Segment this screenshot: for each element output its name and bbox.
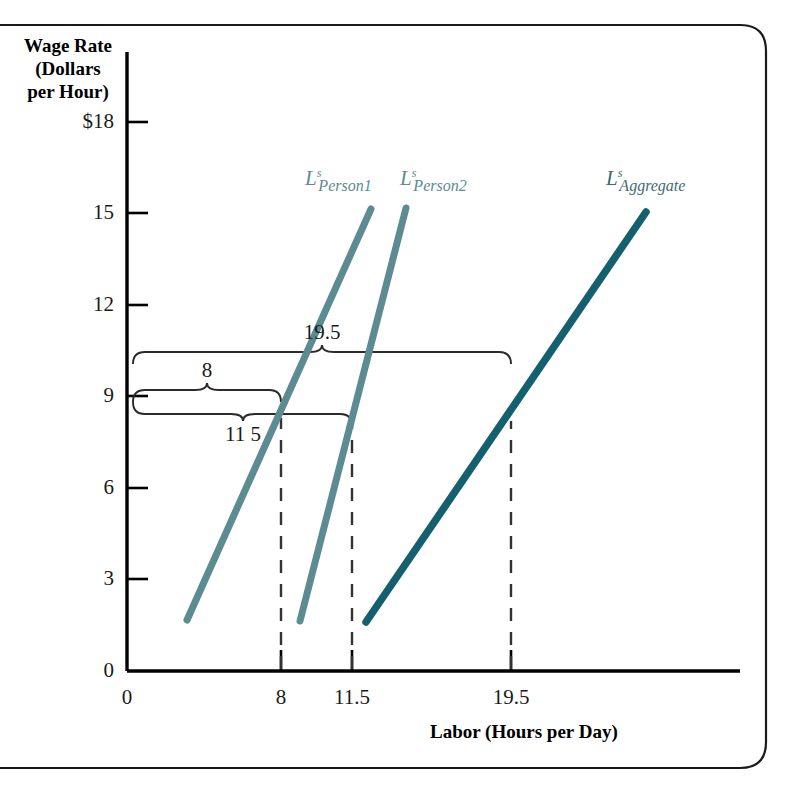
- curve-label-person2-sub: Person2: [413, 177, 466, 194]
- curve-label-person2: LsPerson2: [400, 166, 467, 191]
- curve-aggregate: [366, 212, 646, 622]
- curve-label-person2-base: L: [400, 166, 412, 190]
- brace-label-aggregate: 19.5: [282, 320, 362, 345]
- y-axis-title: Wage Rate (Dollars per Hour): [8, 34, 128, 103]
- y-tick-marks: [127, 122, 148, 579]
- x-tick-label-11-5: 11.5: [317, 685, 387, 710]
- y-tick-label-6: 6: [52, 475, 114, 500]
- y-axis-title-line-1: Wage Rate: [8, 34, 128, 57]
- x-tick-marks: [281, 650, 511, 671]
- x-tick-label-19-5: 19.5: [476, 685, 546, 710]
- curve-label-person1: LsPerson1: [305, 166, 372, 191]
- curve-label-person1-sub: Person1: [318, 177, 371, 194]
- y-tick-label-3: 3: [52, 566, 114, 591]
- brace-label-person2: 11 5: [203, 422, 283, 447]
- curve-label-aggregate: LsAggregate: [606, 166, 685, 191]
- curve-label-person1-base: L: [305, 166, 317, 190]
- y-tick-label-0: 0: [52, 658, 114, 683]
- figure-container: Wage Rate (Dollars per Hour) Labor (Hour…: [0, 0, 798, 789]
- curve-label-aggregate-base: L: [606, 166, 618, 190]
- y-tick-label-18: $18: [52, 109, 114, 134]
- x-tick-label-8: 8: [246, 685, 316, 710]
- brace-label-person1: 8: [167, 358, 247, 383]
- brace-path-person1: [133, 383, 281, 402]
- curve-label-aggregate-sub: Aggregate: [619, 177, 685, 194]
- x-axis-title: Labor (Hours per Day): [430, 720, 618, 743]
- y-axis-title-line-2: (Dollars: [8, 57, 128, 80]
- y-tick-label-9: 9: [52, 383, 114, 408]
- y-tick-label-15: 15: [52, 200, 114, 225]
- x-tick-label-0: 0: [92, 685, 162, 710]
- y-tick-label-12: 12: [52, 292, 114, 317]
- y-axis-title-line-3: per Hour): [8, 80, 128, 103]
- plot-area: [0, 0, 798, 789]
